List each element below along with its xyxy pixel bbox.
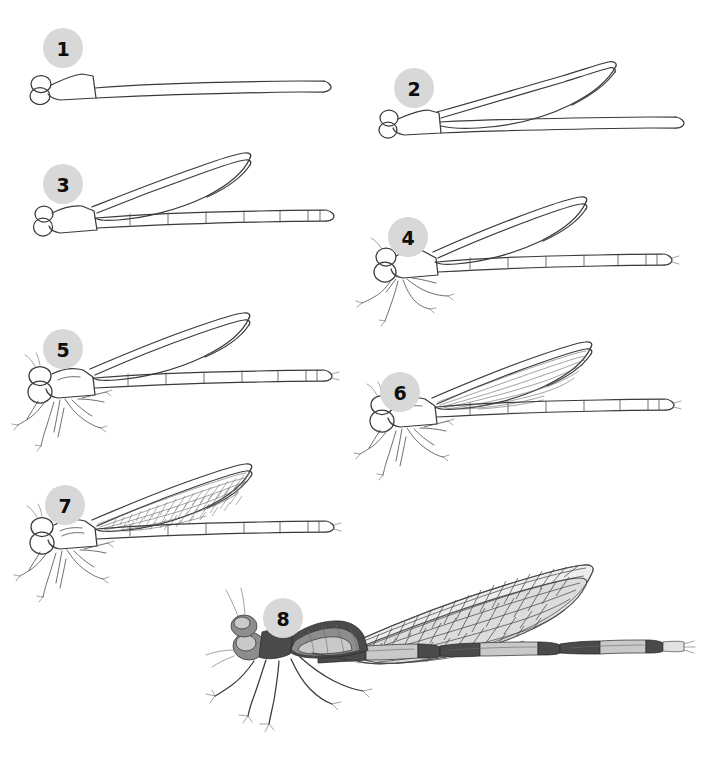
step-3-badge: 3 [43, 164, 83, 204]
step-number-label: 3 [56, 174, 69, 196]
step-1-badge: 1 [43, 28, 83, 68]
step-number-label: 5 [56, 339, 69, 361]
step-8-badge: 8 [263, 598, 303, 638]
step-number-label: 4 [401, 227, 414, 249]
step-number-label: 7 [58, 495, 71, 517]
drawing-tutorial-canvas: 1 2 [0, 0, 709, 767]
step-5-badge: 5 [43, 329, 83, 369]
step-6-badge: 6 [380, 372, 420, 412]
step-number-label: 1 [56, 38, 69, 60]
step-2-badge: 2 [394, 68, 434, 108]
step-7-badge: 7 [45, 485, 85, 525]
step-number-label: 6 [393, 382, 406, 404]
step-number-label: 8 [276, 608, 289, 630]
step-number-label: 2 [407, 78, 420, 100]
step-4-badge: 4 [388, 217, 428, 257]
